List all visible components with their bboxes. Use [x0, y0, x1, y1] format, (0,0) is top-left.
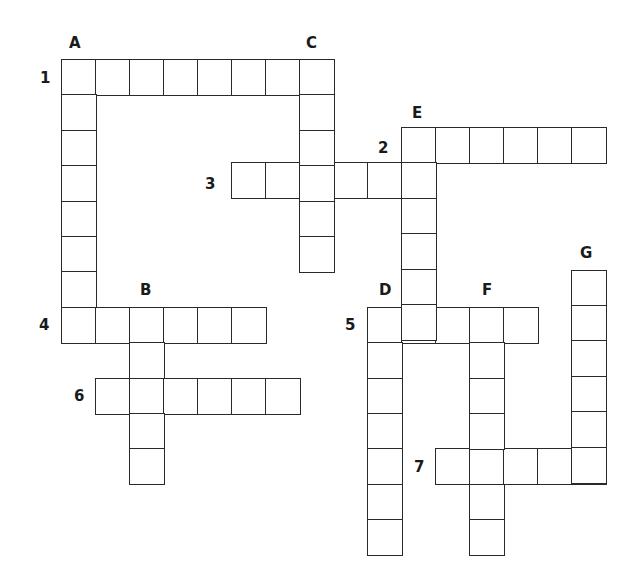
- down-clue-letter: A: [69, 36, 81, 51]
- crossword-cell[interactable]: [503, 448, 539, 485]
- crossword-cell[interactable]: [129, 342, 165, 379]
- crossword-cell[interactable]: [367, 484, 403, 521]
- crossword-cell[interactable]: [367, 342, 403, 379]
- crossword-cell[interactable]: [197, 307, 233, 344]
- crossword-cell[interactable]: [265, 378, 301, 415]
- crossword-cell[interactable]: [95, 59, 131, 96]
- across-clue-number: 6: [74, 389, 84, 404]
- crossword-cell[interactable]: [435, 448, 471, 485]
- down-clue-letter: D: [379, 283, 391, 298]
- crossword-cell[interactable]: [197, 378, 233, 415]
- across-clue-number: 7: [414, 460, 424, 475]
- across-clue-number: 2: [378, 141, 388, 156]
- crossword-cell[interactable]: [197, 59, 233, 96]
- crossword-cell[interactable]: [537, 127, 573, 164]
- crossword-cell[interactable]: [129, 307, 165, 344]
- crossword-cell[interactable]: [571, 127, 607, 164]
- crossword-cell[interactable]: [61, 271, 97, 308]
- crossword-cell[interactable]: [61, 236, 97, 273]
- crossword-cell[interactable]: [469, 519, 505, 556]
- crossword-cell[interactable]: [401, 198, 437, 235]
- crossword-cell[interactable]: [163, 59, 199, 96]
- crossword-cell[interactable]: [367, 378, 403, 415]
- crossword-cell[interactable]: [435, 307, 471, 344]
- crossword-cell[interactable]: [61, 59, 97, 96]
- down-clue-letter: E: [412, 106, 422, 121]
- crossword-cell[interactable]: [571, 376, 607, 413]
- crossword-cell[interactable]: [401, 233, 437, 270]
- crossword-cell[interactable]: [333, 162, 369, 199]
- crossword-cell[interactable]: [571, 340, 607, 377]
- crossword-cell[interactable]: [401, 162, 437, 199]
- crossword-cell[interactable]: [299, 165, 335, 202]
- crossword-cell[interactable]: [299, 59, 335, 96]
- crossword-cell[interactable]: [401, 269, 437, 306]
- crossword-cell[interactable]: [163, 378, 199, 415]
- crossword-cell[interactable]: [299, 201, 335, 238]
- crossword-cell[interactable]: [571, 270, 607, 307]
- crossword-cell[interactable]: [129, 59, 165, 96]
- crossword-cell[interactable]: [367, 448, 403, 485]
- crossword-cell[interactable]: [61, 165, 97, 202]
- crossword-cell[interactable]: [367, 307, 403, 344]
- crossword-cell[interactable]: [163, 307, 199, 344]
- crossword-cell[interactable]: [571, 411, 607, 448]
- across-clue-number: 1: [40, 71, 50, 86]
- down-clue-letter: F: [482, 283, 492, 298]
- crossword-grid: AC1E23GBDF4567: [0, 0, 641, 588]
- crossword-cell[interactable]: [61, 130, 97, 167]
- crossword-cell[interactable]: [265, 59, 301, 96]
- crossword-cell[interactable]: [503, 127, 539, 164]
- crossword-cell[interactable]: [367, 519, 403, 556]
- crossword-cell[interactable]: [503, 307, 539, 344]
- crossword-cell[interactable]: [571, 305, 607, 342]
- crossword-cell[interactable]: [299, 130, 335, 167]
- crossword-cell[interactable]: [469, 448, 505, 485]
- crossword-cell[interactable]: [401, 127, 437, 164]
- crossword-cell[interactable]: [469, 127, 505, 164]
- crossword-cell[interactable]: [469, 342, 505, 379]
- crossword-cell[interactable]: [129, 378, 165, 415]
- across-clue-number: 5: [345, 318, 355, 333]
- crossword-cell[interactable]: [367, 413, 403, 450]
- crossword-cell[interactable]: [469, 307, 505, 344]
- down-clue-letter: B: [140, 283, 151, 298]
- crossword-cell[interactable]: [129, 413, 165, 450]
- crossword-cell[interactable]: [129, 448, 165, 485]
- crossword-cell[interactable]: [435, 127, 471, 164]
- down-clue-letter: G: [580, 246, 592, 261]
- crossword-cell[interactable]: [401, 304, 437, 341]
- crossword-cell[interactable]: [299, 236, 335, 273]
- crossword-cell[interactable]: [231, 162, 267, 199]
- across-clue-number: 4: [39, 318, 49, 333]
- crossword-cell[interactable]: [299, 94, 335, 131]
- crossword-cell[interactable]: [367, 162, 403, 199]
- crossword-cell[interactable]: [265, 162, 301, 199]
- crossword-cell[interactable]: [571, 447, 607, 484]
- crossword-cell[interactable]: [61, 201, 97, 238]
- across-clue-number: 3: [205, 177, 215, 192]
- crossword-cell[interactable]: [231, 307, 267, 344]
- crossword-cell[interactable]: [231, 59, 267, 96]
- crossword-cell[interactable]: [95, 307, 131, 344]
- crossword-cell[interactable]: [469, 413, 505, 450]
- crossword-cell[interactable]: [469, 484, 505, 521]
- crossword-cell[interactable]: [61, 94, 97, 131]
- crossword-cell[interactable]: [537, 448, 573, 485]
- down-clue-letter: C: [306, 36, 317, 51]
- crossword-cell[interactable]: [95, 378, 131, 415]
- crossword-cell[interactable]: [231, 378, 267, 415]
- crossword-cell[interactable]: [61, 307, 97, 344]
- crossword-cell[interactable]: [469, 378, 505, 415]
